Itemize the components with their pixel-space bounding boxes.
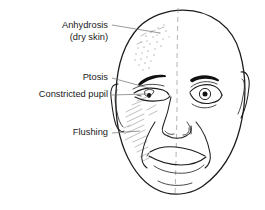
label-flushing: Flushing	[73, 127, 108, 137]
horner-syndrome-face-diagram: Anhydrosis (dry skin) Ptosis Constricted…	[0, 0, 265, 210]
normal-pupil	[203, 92, 208, 97]
diagram-root: Anhydrosis (dry skin) Ptosis Constricted…	[0, 0, 265, 210]
label-anhydrosis-line1: Anhydrosis	[62, 20, 108, 30]
label-anhydrosis-line2: (dry skin)	[70, 32, 108, 42]
label-ptosis: Ptosis	[83, 72, 109, 82]
label-constricted-pupil: Constricted pupil	[39, 89, 108, 99]
